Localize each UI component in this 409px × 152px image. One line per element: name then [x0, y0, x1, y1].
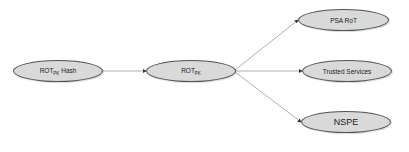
node-psa-rot: PSA RoT — [298, 9, 389, 31]
node-trusted-services: Trusted Services — [302, 60, 392, 82]
node-nspe: NSPE — [301, 111, 391, 133]
edge-rot-nspe — [235, 72, 301, 122]
node-label: ROTPK — [181, 67, 201, 76]
node-rot: ROTPK — [146, 60, 236, 82]
node-label: ROTPK Hash — [40, 67, 77, 76]
node-label: PSA RoT — [330, 17, 357, 24]
node-label: Trusted Services — [323, 68, 372, 75]
edge-rot-psarot — [235, 20, 298, 70]
node-rot-hash: ROTPK Hash — [13, 60, 103, 82]
node-label: NSPE — [334, 117, 359, 127]
